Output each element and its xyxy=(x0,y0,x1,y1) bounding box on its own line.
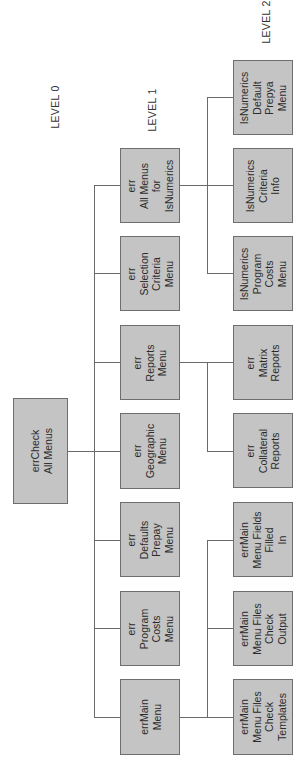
level-0-label: LEVEL 0 xyxy=(49,85,61,128)
node-label: err Collateral Reports xyxy=(244,428,282,472)
connector-l2 xyxy=(207,362,233,363)
node-label: err Selection Criteria Menu xyxy=(125,252,175,295)
node-root-errcheck-all-menus: errCheck All Menus xyxy=(13,398,68,504)
node-label: err Matrix Reports xyxy=(244,344,282,381)
node-l1-all-menus-isnumerics: err All Menus for IsNumerics xyxy=(120,148,180,223)
node-label: err Program Costs Menu xyxy=(125,608,175,648)
connector-l1 xyxy=(94,717,120,718)
connector-reports-bus xyxy=(207,362,208,451)
node-label: errMain Menu xyxy=(138,699,163,735)
connector-l1 xyxy=(94,185,120,186)
node-label: errCheck All Menus xyxy=(28,428,53,474)
node-l1-defaults-prepay-menu: err Defaults Prepay Menu xyxy=(120,502,180,577)
node-label: errMain Menu Files Check Output xyxy=(238,603,288,654)
node-l2-matrix-reports: err Matrix Reports xyxy=(233,325,293,400)
node-l2-errmain-files-check-output: errMain Menu Files Check Output xyxy=(233,591,293,666)
connector-l2 xyxy=(207,628,233,629)
connector-l1 xyxy=(94,540,120,541)
node-label: IsNumerics Default Prepya Menu xyxy=(238,71,288,124)
node-label: IsNumerics Criteria Info xyxy=(244,159,282,212)
node-l2-isnumerics-default-prepya: IsNumerics Default Prepya Menu xyxy=(233,60,293,135)
connector-bus-level1 xyxy=(94,185,95,718)
node-label: err Geographic Menu xyxy=(131,424,169,478)
node-l2-errmain-fields-filled-in: errMain Menu Fields Filled In xyxy=(233,502,293,577)
node-l2-isnumerics-program-costs: IsNumerics Program Costs Menu xyxy=(233,236,293,311)
node-l1-reports-menu: err Reports Menu xyxy=(120,325,180,400)
node-l2-collateral-reports: err Collateral Reports xyxy=(233,413,293,488)
connector-l2 xyxy=(207,717,233,718)
level-1-label: LEVEL 1 xyxy=(146,88,158,131)
level-2-label: LEVEL 2 xyxy=(260,0,272,43)
node-l1-errmain-menu: errMain Menu xyxy=(120,679,180,755)
node-label: IsNumerics Program Costs Menu xyxy=(238,247,288,300)
connector-l1 xyxy=(94,362,120,363)
node-l2-errmain-files-check-templates: errMain Menu Files Check Templates xyxy=(233,679,293,755)
node-l1-geographic-menu: err Geographic Menu xyxy=(120,413,180,489)
connector-l2 xyxy=(207,185,233,186)
connector-l2 xyxy=(207,540,233,541)
connector-l2 xyxy=(207,273,233,274)
connector-l2 xyxy=(207,97,233,98)
connector-l2 xyxy=(207,451,233,452)
connector-mainmenu-bus xyxy=(207,540,208,718)
connector-isnumerics-out xyxy=(180,185,207,186)
connector-mainmenu-out xyxy=(180,717,207,718)
node-label: errMain Menu Fields Filled In xyxy=(238,511,288,568)
node-label: err Reports Menu xyxy=(131,344,169,381)
node-l1-selection-criteria: err Selection Criteria Menu xyxy=(120,236,180,311)
node-l2-isnumerics-criteria-info: IsNumerics Criteria Info xyxy=(233,148,293,223)
node-l1-program-costs-menu: err Program Costs Menu xyxy=(120,591,180,666)
connector-l1 xyxy=(94,628,120,629)
node-label: err Defaults Prepay Menu xyxy=(125,520,175,559)
connector-l1 xyxy=(94,273,120,274)
node-label: err All Menus for IsNumerics xyxy=(125,159,175,212)
node-label: errMain Menu Files Check Templates xyxy=(238,691,288,742)
connector-reports-out xyxy=(180,362,207,363)
